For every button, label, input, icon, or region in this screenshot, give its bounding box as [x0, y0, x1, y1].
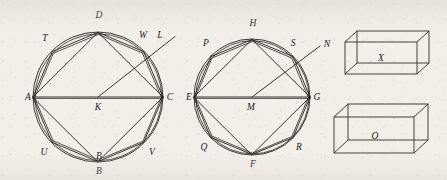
box-x-edge-tr — [417, 31, 429, 42]
label-point-t: T — [42, 33, 48, 43]
ray-k-w-l — [98, 37, 175, 98]
label-point-n: N — [323, 39, 331, 49]
label-point-s: S — [291, 38, 296, 48]
label-point-w: W — [139, 30, 148, 40]
label-point-a: A — [24, 92, 31, 102]
box-x-back-face — [357, 31, 429, 63]
box-o-back-face — [348, 104, 428, 140]
label-point-p: P — [202, 38, 209, 48]
box-o-edge-br — [414, 140, 428, 153]
label-point-u: U — [41, 147, 49, 157]
label-point-d: D — [95, 10, 103, 20]
geometry-figure-sheet: A B B C D K L T U V W B — [0, 0, 447, 180]
figure-left-circle-k: A B B C D K L T U V W — [24, 10, 175, 162]
figures-canvas: A B B C D K L T U V W B — [0, 0, 447, 180]
label-point-g: G — [314, 92, 321, 102]
label-point-h: H — [249, 18, 258, 28]
figure-middle-circle-m: E F G H M N P Q R S — [185, 18, 331, 169]
label-point-q: Q — [201, 142, 208, 152]
label-point-k: K — [94, 102, 102, 112]
box-o-edge-tl — [334, 104, 348, 117]
label-point-m: M — [246, 102, 256, 112]
figure-box-upper-x: X — [345, 31, 429, 74]
label-point-b-below: B — [96, 166, 102, 176]
label-point-c: C — [167, 92, 174, 102]
box-o-edge-bl — [334, 140, 348, 153]
box-o-edge-tr — [414, 104, 428, 117]
box-x-edge-bl — [345, 63, 357, 74]
label-box-x: X — [377, 53, 385, 63]
label-point-e: E — [185, 92, 192, 102]
box-x-edge-br — [417, 63, 429, 74]
label-box-o: O — [372, 131, 379, 141]
label-point-v: V — [149, 147, 156, 157]
label-point-b: B — [96, 151, 102, 161]
label-point-f: F — [249, 159, 256, 169]
figure-box-lower-o: O — [334, 104, 428, 153]
box-x-edge-tl — [345, 31, 357, 42]
label-point-l: L — [156, 30, 162, 40]
label-point-r: R — [295, 142, 302, 152]
